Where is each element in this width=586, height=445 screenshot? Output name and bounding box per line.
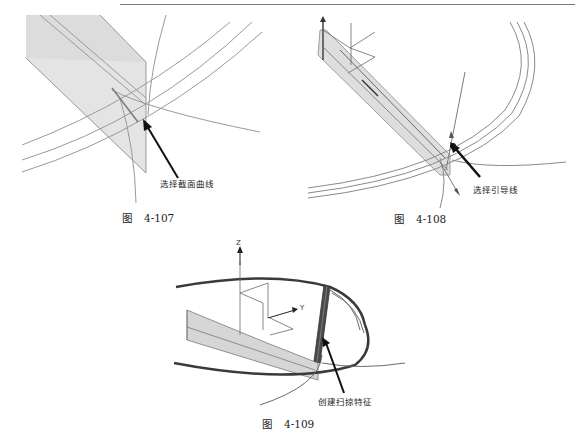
figure-4-107-callout: 选择截面曲线: [160, 177, 214, 189]
z-axis-label: Z: [236, 239, 241, 247]
figure-4-107-caption: 图4-107: [122, 210, 174, 225]
figure-4-107-caption-prefix: 图: [122, 212, 132, 224]
figure-4-108-caption-prefix: 图: [394, 213, 404, 225]
figure-4-108: 选择引导线 图4-108: [290, 10, 586, 250]
figure-4-109-caption-prefix: 图: [262, 418, 272, 430]
figure-4-108-caption-number: 4-108: [416, 213, 446, 225]
figure-4-108-callout: 选择引导线: [473, 183, 518, 195]
page-header-rule: [120, 4, 575, 5]
figure-4-109-caption: 图4-109: [262, 416, 314, 431]
figure-4-107-caption-number: 4-107: [144, 212, 174, 224]
figure-4-109-caption-number: 4-109: [284, 418, 314, 430]
figure-4-109-callout: 创建扫掠特征: [318, 395, 372, 407]
figure-4-109: Z Y 创建扫掠特征 图4-109: [150, 245, 440, 445]
figure-4-108-caption: 图4-108: [394, 211, 446, 226]
y-axis-label: Y: [300, 304, 304, 312]
figure-4-107: 选择截面曲线 图4-107: [0, 10, 290, 250]
figure-4-109-drawing: [150, 245, 440, 445]
